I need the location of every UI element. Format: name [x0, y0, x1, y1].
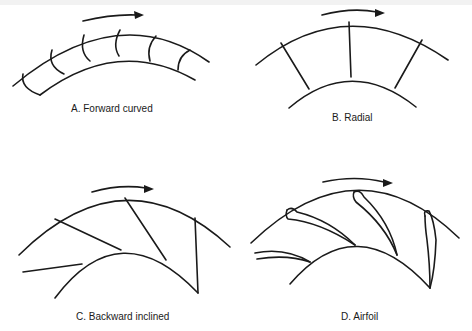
airfoil-blades [255, 191, 436, 288]
fan-blade-types-diagram: A. Forward curved B. Radial C. Back [0, 0, 472, 331]
panel-label: B. Radial [332, 112, 373, 123]
panel-radial: B. Radial [256, 9, 448, 123]
outer-rim [19, 200, 230, 255]
panel-label: D. Airfoil [341, 311, 378, 322]
panel-forward-curved: A. Forward curved [13, 11, 209, 114]
rotation-arrow-icon [322, 9, 385, 17]
inner-rim [40, 61, 195, 95]
outer-rim [251, 190, 459, 243]
rotation-arrow-icon [323, 179, 393, 188]
panel-backward-inclined: C. Backward inclined [19, 185, 230, 322]
panel-label: C. Backward inclined [76, 311, 169, 322]
radial-blades [281, 22, 422, 89]
backward-inclined-blades [23, 198, 198, 293]
panel-label: A. Forward curved [71, 103, 153, 114]
inner-rim [290, 246, 430, 288]
rotation-arrow-icon [92, 185, 154, 193]
panel-airfoil: D. Airfoil [251, 179, 459, 323]
rotation-arrow-icon [83, 11, 144, 21]
inner-rim [55, 253, 198, 298]
